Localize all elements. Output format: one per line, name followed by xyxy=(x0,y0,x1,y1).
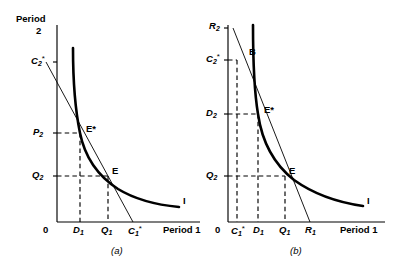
x-tick-label-c1star-b-star: * xyxy=(242,224,245,233)
point-label-e-b: E xyxy=(289,166,295,176)
y-tick-label-c2star-b: C2* xyxy=(206,53,219,65)
y-tick-label-c2star-a-base: C xyxy=(31,55,38,66)
point-label-e-a: E xyxy=(112,166,118,176)
panel-caption-b: (b) xyxy=(290,246,302,256)
point-label-estar-a: E* xyxy=(86,124,96,134)
budget-line-a xyxy=(46,62,133,222)
x-tick-label-q1-b: Q1 xyxy=(279,225,290,236)
x-tick-label-q1-a-sub: 1 xyxy=(108,229,112,236)
y-tick-label-q2-b-sub: 2 xyxy=(213,174,217,181)
x-tick-label-q1-b-sub: 1 xyxy=(286,229,290,236)
y-tick-label-r2-b: R2 xyxy=(209,21,220,32)
y-tick-label-p2-a: P2 xyxy=(33,127,43,138)
panel-b-guides xyxy=(228,60,285,222)
y-tick-label-p2-a-sub: 2 xyxy=(39,131,43,138)
y-tick-label-r2-b-base: R xyxy=(209,20,216,31)
point-label-estar-b: E* xyxy=(264,105,274,115)
y-axis-label-a-line2: 2 xyxy=(36,26,41,36)
x-tick-label-d1-b-sub: 1 xyxy=(260,229,264,236)
panel-caption-a: (a) xyxy=(111,246,123,256)
x-axis-label-b: Period 1 xyxy=(340,225,378,235)
x-tick-label-d1-a-base: D xyxy=(73,224,80,235)
x-tick-label-r1-b-base: R xyxy=(305,224,312,235)
y-tick-label-d2-b-base: D xyxy=(206,107,213,118)
economics-figure: Period 2 C2* P2 Q2 0 D1 Q1 C1* Period 1 … xyxy=(0,0,402,273)
y-tick-label-q2-a-sub: 2 xyxy=(39,174,43,181)
x-tick-label-q1-a: Q1 xyxy=(101,225,112,236)
y-tick-label-c2star-a-star: * xyxy=(42,54,45,63)
budget-line-b xyxy=(233,28,310,222)
x-tick-label-c1star-a-star: * xyxy=(139,224,142,233)
origin-label-a: 0 xyxy=(43,225,48,235)
y-axis-label-a-line1: Period xyxy=(16,14,46,24)
origin-label-b: 0 xyxy=(215,225,220,235)
curve-label-i-b: I xyxy=(367,196,370,206)
panel-b-ticks xyxy=(224,28,228,176)
x-tick-label-r1-b-sub: 1 xyxy=(312,229,316,236)
x-tick-label-d1-a: D1 xyxy=(73,225,84,236)
x-tick-label-c1star-b: C1* xyxy=(231,225,244,237)
curve-label-i-a: I xyxy=(183,196,186,206)
x-tick-label-c1star-b-base: C xyxy=(231,225,238,236)
x-tick-label-d1-a-sub: 1 xyxy=(80,229,84,236)
point-label-b: B xyxy=(249,47,256,57)
x-axis-label-a: Period 1 xyxy=(163,225,201,235)
y-tick-label-d2-b-sub: 2 xyxy=(213,112,217,119)
indifference-curve-b xyxy=(253,25,363,206)
x-tick-label-c1star-a-base: C xyxy=(128,225,135,236)
x-tick-label-r1-b: R1 xyxy=(305,225,316,236)
y-tick-label-c2star-b-base: C xyxy=(206,53,213,64)
y-tick-label-c2star-b-star: * xyxy=(217,52,220,61)
y-tick-label-q2-b: Q2 xyxy=(206,170,217,181)
x-tick-label-c1star-a: C1* xyxy=(128,225,141,237)
y-tick-label-c2star-a: C2* xyxy=(31,55,44,67)
x-tick-label-d1-b: D1 xyxy=(253,225,264,236)
y-tick-label-q2-a: Q2 xyxy=(32,170,43,181)
y-tick-label-r2-b-sub: 2 xyxy=(216,25,220,32)
y-tick-label-d2-b: D2 xyxy=(206,108,217,119)
x-tick-label-d1-b-base: D xyxy=(253,224,260,235)
